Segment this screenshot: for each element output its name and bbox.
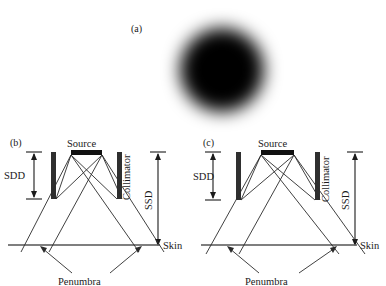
panel-b-ray-inner-left [49, 155, 102, 252]
panel-b-penumbra-leader-left [42, 248, 72, 273]
panel-c-ray-inner-left [239, 155, 294, 254]
panel-c-ray-sl-cl [241, 155, 261, 200]
panel-c-collimator-label: Collimator [320, 156, 331, 202]
panel-c-source-label: Source [258, 138, 287, 149]
panel-b-sdd-arrowhead-bottom [31, 191, 37, 198]
panel-c-skin-label: Skin [360, 240, 380, 251]
panel-b-ssd-arrowhead-top [155, 153, 161, 160]
beam-spot [180, 28, 264, 112]
panel-b-ray-outer-left [21, 155, 71, 252]
panel-c-ray-outer-left [206, 155, 261, 254]
panel-b-source-bar [71, 150, 102, 155]
panel-c-penumbra-arrowhead-left [227, 246, 234, 253]
panel-c: (c) Source Collimator SDD SSD Skin [193, 130, 386, 286]
panel-c-ssd-arrowhead-top [352, 153, 358, 160]
figure-container: (a) (b) Source Collimator SDD SSD Skin [0, 0, 386, 286]
panel-b-skin-label: Skin [163, 240, 183, 251]
panel-b-sdd-label: SDD [4, 170, 25, 181]
panel-a-label: (a) [131, 23, 142, 35]
panel-c-source-bar [261, 150, 294, 155]
panel-c-ssd-label: SSD [340, 190, 351, 210]
panel-c-sdd-label: SDD [193, 171, 214, 182]
panel-c-penumbra-label: Penumbra [245, 276, 288, 286]
panel-b-ray-sl-cr [71, 155, 117, 199]
panel-b-penumbra-arrowhead-left [40, 246, 47, 253]
panel-c-penumbra-leader-right [299, 248, 335, 273]
panel-b-label: (b) [10, 137, 22, 149]
panel-b: (b) Source Collimator SDD SSD Skin [0, 130, 193, 286]
panel-b-sdd-arrowhead-top [31, 153, 37, 160]
panel-b-ray-outer-right [102, 155, 164, 252]
panel-a: (a) [0, 0, 386, 140]
panel-c-label: (c) [203, 137, 214, 149]
panel-c-sdd-arrowhead-bottom [210, 192, 216, 199]
panel-b-penumbra-leader-right [110, 248, 140, 273]
panel-b-ray-sr-cl [56, 155, 102, 199]
panel-b-penumbra-label: Penumbra [58, 276, 101, 286]
panel-b-source-label: Source [67, 138, 96, 149]
panel-c-penumbra-leader-left [229, 248, 259, 273]
panel-b-ssd-label: SSD [143, 190, 154, 210]
panel-c-sdd-arrowhead-top [210, 153, 216, 160]
